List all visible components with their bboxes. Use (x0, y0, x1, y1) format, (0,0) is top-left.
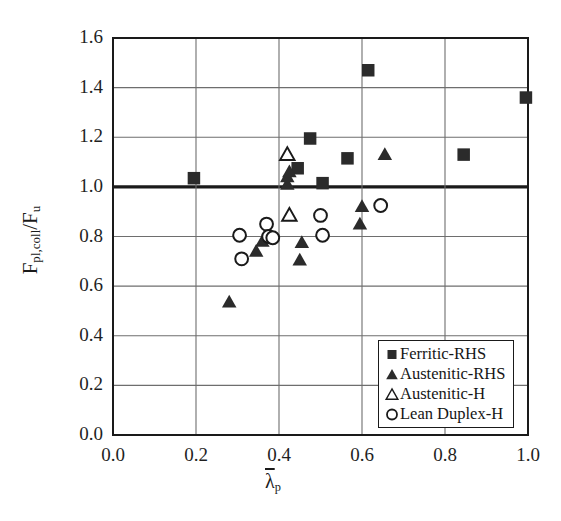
open-circle-icon (384, 406, 400, 422)
y-tick-label: 1.6 (51, 26, 103, 48)
data-point (457, 148, 470, 161)
y-tick-label: 0.0 (51, 423, 103, 445)
filled-square-icon (384, 346, 400, 362)
data-point (293, 253, 308, 266)
legend-item: Ferritic-RHS (383, 344, 508, 364)
data-point (260, 218, 273, 231)
x-tick-label: 0.8 (419, 444, 471, 466)
x-tick-label: 0.4 (253, 444, 305, 466)
data-point (353, 217, 368, 230)
data-point (282, 208, 297, 221)
filled-triangle-icon (384, 366, 400, 382)
legend-marker (383, 386, 400, 402)
legend-item-label: Ferritic-RHS (400, 346, 486, 363)
legend-marker (383, 346, 400, 362)
legend-item-label: Austenitic-RHS (400, 366, 505, 383)
y-tick-label: 1.2 (51, 125, 103, 147)
x-tick-label: 0.2 (170, 444, 222, 466)
legend-item-label: Austenitic-H (400, 386, 485, 403)
legend-item: Austenitic-H (383, 384, 508, 404)
data-point (233, 229, 246, 242)
data-point (295, 235, 310, 248)
x-tick-label: 0.6 (336, 444, 388, 466)
legend-item-label: Lean Duplex-H (400, 406, 503, 423)
open-triangle-icon (384, 386, 400, 402)
data-point (235, 252, 248, 265)
legend-marker (383, 366, 400, 382)
legend-marker (383, 406, 400, 422)
scatter-chart-figure: Fpl,coll/Fu λp 0.00.20.40.60.81.01.21.41… (0, 0, 561, 521)
series-ferritic-rhs (188, 64, 533, 189)
legend-item: Lean Duplex-H (383, 404, 508, 424)
y-tick-label: 0.2 (51, 373, 103, 395)
data-point (280, 147, 295, 160)
data-point (316, 229, 329, 242)
data-point (266, 231, 279, 244)
data-point (316, 177, 329, 190)
y-tick-label: 1.4 (51, 76, 103, 98)
chart-legend: Ferritic-RHSAustenitic-RHSAustenitic-HLe… (378, 340, 514, 428)
data-point (520, 91, 533, 104)
y-tick-label: 0.8 (51, 225, 103, 247)
x-tick-label: 1.0 (502, 444, 554, 466)
y-tick-label: 0.4 (51, 324, 103, 346)
data-point (362, 64, 375, 77)
data-point (222, 295, 237, 308)
legend-item: Austenitic-RHS (383, 364, 508, 384)
data-point (378, 147, 393, 160)
data-point (355, 199, 370, 212)
y-tick-label: 0.6 (51, 274, 103, 296)
series-austenitic-rhs (222, 147, 392, 307)
data-point (304, 132, 317, 145)
data-point (374, 199, 387, 212)
x-tick-label: 0.0 (87, 444, 139, 466)
y-tick-label: 1.0 (51, 175, 103, 197)
data-point (188, 172, 201, 185)
data-point (314, 209, 327, 222)
data-point (341, 152, 354, 165)
